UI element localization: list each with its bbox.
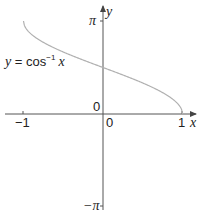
chart-canvas: y x π −π −1 1 0 0 y = cos−1x (0, 0, 202, 211)
function-var: x (57, 54, 65, 69)
x-axis-label: x (189, 115, 197, 130)
y-axis-label: y (104, 4, 113, 19)
function-sup: −1 (46, 53, 56, 62)
zero-x-label: 0 (106, 115, 113, 130)
one-label: 1 (178, 115, 185, 130)
zero-y-label: 0 (93, 99, 100, 114)
function-label: y = cos−1x (3, 53, 65, 69)
neg-one-label: −1 (15, 115, 30, 130)
neg-pi-label: −π (83, 198, 100, 211)
function-eq: = cos (11, 54, 47, 69)
pi-label: π (89, 13, 97, 28)
